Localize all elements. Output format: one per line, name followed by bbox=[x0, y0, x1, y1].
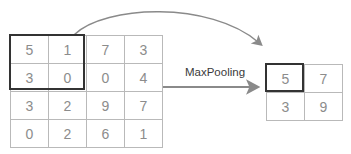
input-cell-r3c3: 1 bbox=[125, 120, 163, 148]
table-row: 3 9 bbox=[267, 93, 343, 121]
output-cell-r0c0: 5 bbox=[267, 65, 305, 93]
input-cell-r1c0: 3 bbox=[11, 64, 49, 92]
input-cell-r0c0: 5 bbox=[11, 36, 49, 64]
input-cell-r3c1: 2 bbox=[49, 120, 87, 148]
input-cell-r2c0: 3 bbox=[11, 92, 49, 120]
input-feature-map: 5 1 7 3 3 0 0 4 3 2 9 7 0 2 6 1 bbox=[10, 35, 163, 148]
table-row: 0 2 6 1 bbox=[11, 120, 163, 148]
maxpooling-diagram: 5 1 7 3 3 0 0 4 3 2 9 7 0 2 6 1 bbox=[0, 0, 351, 154]
operation-label: MaxPooling bbox=[176, 66, 254, 78]
output-cell-r1c1: 9 bbox=[305, 93, 343, 121]
input-cell-r0c1: 1 bbox=[49, 36, 87, 64]
input-cell-r1c3: 4 bbox=[125, 64, 163, 92]
pooled-output: 5 7 3 9 bbox=[266, 64, 343, 121]
input-cell-r2c1: 2 bbox=[49, 92, 87, 120]
input-cell-r1c2: 0 bbox=[87, 64, 125, 92]
input-cell-r1c1: 0 bbox=[49, 64, 87, 92]
output-cell-r0c1: 7 bbox=[305, 65, 343, 93]
input-cell-r2c2: 9 bbox=[87, 92, 125, 120]
table-row: 5 7 bbox=[267, 65, 343, 93]
table-row: 3 2 9 7 bbox=[11, 92, 163, 120]
input-cell-r3c0: 0 bbox=[11, 120, 49, 148]
output-cell-r1c0: 3 bbox=[267, 93, 305, 121]
table-row: 5 1 7 3 bbox=[11, 36, 163, 64]
input-cell-r2c3: 7 bbox=[125, 92, 163, 120]
input-cell-r0c2: 7 bbox=[87, 36, 125, 64]
table-row: 3 0 0 4 bbox=[11, 64, 163, 92]
input-cell-r0c3: 3 bbox=[125, 36, 163, 64]
input-cell-r3c2: 6 bbox=[87, 120, 125, 148]
